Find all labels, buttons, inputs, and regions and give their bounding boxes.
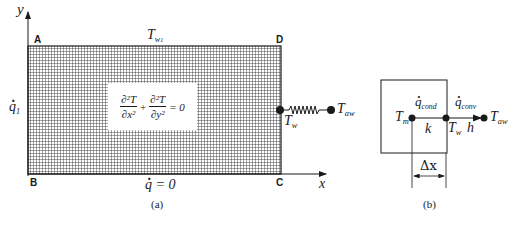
corner-label-a: A xyxy=(34,35,41,45)
eq-term-y: ∂²T ∂y² xyxy=(149,93,166,120)
eq-term1-numerator: ∂²T xyxy=(120,93,137,107)
ambient-node-dot xyxy=(327,106,335,114)
node-aw-label: Taw xyxy=(490,110,508,126)
spacing-label: Δx xyxy=(420,159,437,172)
node-m-label: Tm xyxy=(395,110,409,126)
convection-coefficient-label: h xyxy=(467,121,474,135)
node-w-label: Tw xyxy=(448,121,461,137)
wall-temp-label: Tw xyxy=(284,114,297,130)
node-aw-dot xyxy=(481,115,488,122)
corner-label-d: D xyxy=(276,35,283,45)
eq-term-x: ∂²T ∂x² xyxy=(120,93,137,120)
eq-term1-denominator: ∂x² xyxy=(122,107,136,120)
corner-label-b: B xyxy=(30,178,37,188)
diagram-canvas xyxy=(0,0,522,225)
left-heat-flux-label: q1 xyxy=(9,100,20,116)
bottom-heat-flux-label: q = 0 xyxy=(145,178,175,192)
eq-term2-denominator: ∂y² xyxy=(151,107,165,120)
wall-node-dot xyxy=(276,106,284,114)
eq-term2-numerator: ∂²T xyxy=(149,93,166,107)
caption-b: (b) xyxy=(423,199,436,210)
caption-a: (a) xyxy=(151,199,163,210)
ambient-temp-label: Taw xyxy=(337,102,355,118)
top-wall-temp-label: Tw1 xyxy=(147,28,163,44)
conductivity-label: k xyxy=(425,122,431,136)
y-axis-label: y xyxy=(17,2,24,17)
q-cond-label: qcond xyxy=(415,95,437,111)
q-conv-label: qconv xyxy=(455,95,476,111)
laplace-equation-box: ∂²T ∂x² + ∂²T ∂y² = 0 xyxy=(108,83,197,130)
x-axis-label: x xyxy=(319,177,325,191)
eq-plus: + xyxy=(140,101,146,113)
eq-rhs: = 0 xyxy=(169,101,185,113)
corner-label-c: C xyxy=(276,178,283,188)
